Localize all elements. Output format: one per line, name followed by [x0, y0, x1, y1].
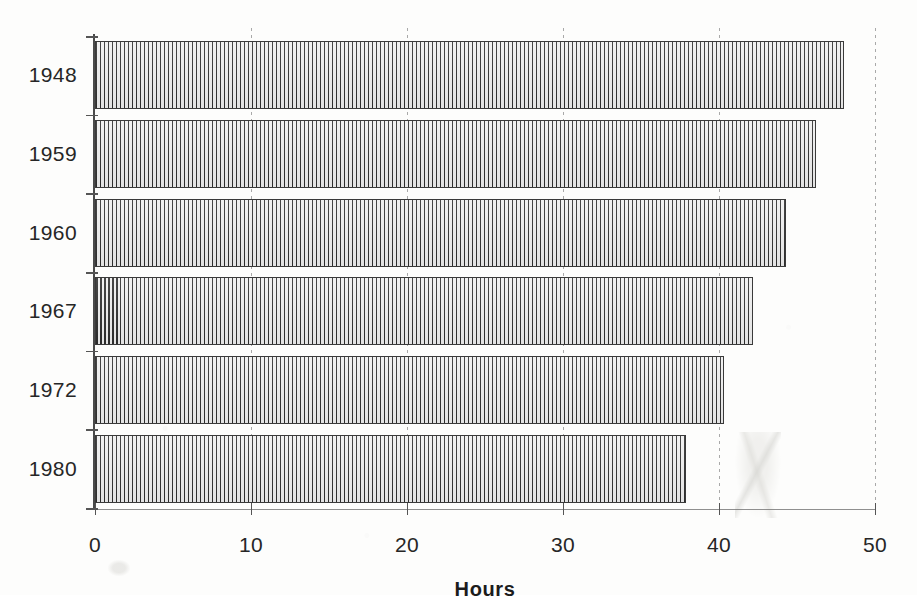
y-tick-6 [86, 508, 98, 510]
x-tick-40 [719, 503, 720, 515]
x-tick-50 [875, 503, 876, 515]
y-tick-4 [86, 351, 98, 353]
bar-1967 [95, 277, 753, 345]
y-tick-0 [86, 36, 98, 38]
gridline-50 [875, 28, 876, 510]
bar-1948 [95, 41, 844, 109]
y-axis-label-1948: 1948 [29, 63, 77, 87]
y-axis-label-1967: 1967 [29, 299, 77, 323]
x-axis-label-40: 40 [707, 533, 731, 557]
x-axis-label-50: 50 [863, 533, 887, 557]
y-tick-3 [86, 272, 98, 274]
x-axis-label-30: 30 [551, 533, 575, 557]
x-tick-20 [407, 503, 408, 515]
x-axis-label-10: 10 [239, 533, 263, 557]
x-tick-30 [563, 503, 564, 515]
scan-artifact-speck [108, 560, 130, 576]
y-axis-label-1972: 1972 [29, 378, 77, 402]
bar-1959 [95, 120, 816, 188]
bar-1972 [95, 356, 724, 424]
y-tick-5 [86, 429, 98, 431]
x-axis-label-20: 20 [395, 533, 419, 557]
y-tick-2 [86, 193, 98, 195]
x-tick-10 [251, 503, 252, 515]
x-axis-line [93, 509, 875, 510]
y-axis-label-1960: 1960 [29, 221, 77, 245]
y-axis-label-1980: 1980 [29, 457, 77, 481]
y-axis-label-1959: 1959 [29, 142, 77, 166]
bar-1960 [95, 199, 786, 267]
y-tick-1 [86, 115, 98, 117]
plot-area: 194819591960196719721980 01020304050 Hou… [95, 36, 875, 508]
x-axis-label-0: 0 [89, 533, 101, 557]
bar-1980 [95, 435, 686, 503]
x-axis-title: Hours [95, 578, 875, 600]
